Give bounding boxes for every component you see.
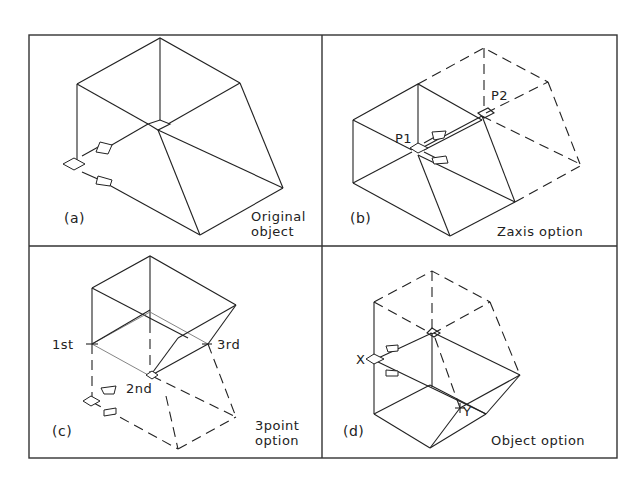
point-1st-label: 1st — [52, 337, 74, 352]
panel-a-wireframe — [77, 38, 283, 235]
panel-c-label: (c) — [52, 424, 72, 439]
panel-c-wireframe — [86, 256, 236, 449]
panel-d-caption: Object option — [491, 433, 585, 448]
ucs-icon-d — [366, 345, 398, 376]
panel-c-caption-line1: 3point — [255, 418, 299, 433]
panel-c-caption-line2: option — [255, 433, 299, 448]
panel-b-label: (b) — [350, 211, 371, 226]
panel-d-label: (d) — [343, 424, 364, 439]
figure-frame — [29, 35, 617, 458]
ucs-options-figure — [0, 0, 638, 481]
point-2nd-label: 2nd — [126, 381, 152, 396]
point-3rd-label: 3rd — [217, 337, 240, 352]
panel-a-caption-line2: object — [251, 224, 294, 239]
panel-d-wireframe — [374, 271, 520, 448]
panel-b-wireframe — [353, 48, 580, 236]
point-p2-label: P2 — [491, 88, 508, 103]
ucs-icon — [63, 142, 112, 186]
point-x-label: X — [356, 352, 365, 367]
panel-b-caption: Zaxis option — [497, 224, 583, 239]
point-y-label: Y — [463, 404, 471, 419]
point-p1-label: P1 — [395, 131, 412, 146]
panel-a-caption-line1: Original — [251, 209, 306, 224]
panel-a-label: (a) — [64, 211, 85, 226]
